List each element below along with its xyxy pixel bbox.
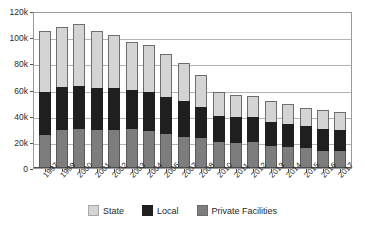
stacked-bar: [126, 42, 138, 168]
bar-segment-private-facilities: [73, 129, 85, 168]
stacked-bar: [178, 63, 190, 168]
legend-label: State: [103, 206, 124, 216]
bar-segment-private-facilities: [56, 130, 68, 168]
state-swatch-icon: [88, 205, 99, 216]
bar-column: [297, 13, 314, 168]
bar-column: [193, 13, 210, 168]
bar-segment-private-facilities: [178, 137, 190, 168]
bar-segment-private-facilities: [108, 130, 120, 168]
bar-segment-state: [178, 63, 190, 101]
bar-segment-local: [178, 101, 190, 136]
bar-segment-local: [143, 92, 155, 131]
stacked-bar: [317, 110, 329, 168]
bar-column: [314, 13, 331, 168]
bar-segment-state: [317, 110, 329, 128]
bar-segment-state: [213, 92, 225, 116]
plot-area: [33, 12, 352, 169]
local-swatch-icon: [142, 205, 153, 216]
bar-segment-local: [73, 86, 85, 129]
stacked-bar: [282, 104, 294, 168]
legend-label: Local: [157, 206, 179, 216]
bar-segment-private-facilities: [143, 131, 155, 168]
stacked-bar: [265, 101, 277, 168]
bar-column: [245, 13, 262, 168]
bar-column: [106, 13, 123, 168]
bar-column: [36, 13, 53, 168]
bar-segment-private-facilities: [160, 134, 172, 168]
bar-column: [53, 13, 70, 168]
stacked-bar: [56, 27, 68, 168]
bar-segment-state: [282, 104, 294, 124]
bar-segment-local: [91, 88, 103, 130]
bar-segment-local: [317, 129, 329, 151]
bar-segment-local: [230, 117, 242, 143]
bar-column: [227, 13, 244, 168]
stacked-bar: [91, 31, 103, 168]
bar-segment-local: [39, 92, 51, 135]
bar-segment-local: [108, 88, 120, 130]
bar-segment-state: [160, 54, 172, 97]
stacked-bar: [73, 24, 85, 168]
bar-segment-state: [195, 75, 207, 106]
bar-segment-state: [56, 27, 68, 87]
y-axis-tick-mark: [30, 169, 33, 170]
bar-segment-private-facilities: [39, 135, 51, 168]
private-facilities-swatch-icon: [197, 205, 208, 216]
stacked-bar: [160, 54, 172, 168]
bar-column: [88, 13, 105, 168]
stacked-bar: [300, 108, 312, 168]
bar-group: [34, 13, 351, 168]
stacked-bar: [39, 31, 51, 168]
stacked-bar-chart: 020k40k60k80k100k120k 199719992000200120…: [0, 0, 365, 230]
bar-segment-state: [126, 42, 138, 89]
bar-segment-state: [91, 31, 103, 89]
bar-segment-local: [247, 117, 259, 142]
bar-column: [140, 13, 157, 168]
y-axis-tick-label: 0: [0, 165, 28, 173]
bar-segment-state: [265, 101, 277, 122]
stacked-bar: [334, 112, 346, 168]
bar-segment-state: [334, 112, 346, 130]
bar-column: [210, 13, 227, 168]
stacked-bar: [247, 96, 259, 168]
bar-segment-state: [300, 108, 312, 126]
bar-segment-local: [265, 122, 277, 146]
stacked-bar: [213, 92, 225, 168]
bar-segment-local: [282, 124, 294, 148]
y-axis-tick-label: 100k: [0, 34, 28, 42]
stacked-bar: [230, 95, 242, 168]
bar-segment-state: [143, 45, 155, 92]
stacked-bar: [195, 75, 207, 168]
bar-column: [158, 13, 175, 168]
bar-segment-state: [39, 31, 51, 92]
y-axis-tick-label: 80k: [0, 60, 28, 68]
bar-segment-local: [213, 116, 225, 142]
bar-column: [332, 13, 349, 168]
legend-label: Private Facilities: [212, 206, 278, 216]
legend-item[interactable]: Private Facilities: [197, 205, 278, 216]
y-axis-tick-label: 40k: [0, 113, 28, 121]
bar-segment-state: [230, 95, 242, 117]
bar-segment-state: [73, 24, 85, 85]
bar-segment-private-facilities: [91, 130, 103, 168]
bar-segment-local: [300, 126, 312, 148]
stacked-bar: [143, 45, 155, 168]
bar-column: [279, 13, 296, 168]
bar-segment-local: [195, 107, 207, 138]
bar-column: [262, 13, 279, 168]
legend-item[interactable]: Local: [142, 205, 179, 216]
bar-segment-local: [334, 130, 346, 151]
bar-segment-local: [126, 90, 138, 129]
y-axis-tick-label: 60k: [0, 87, 28, 95]
chart-legend: StateLocalPrivate Facilities: [0, 205, 365, 216]
legend-item[interactable]: State: [88, 205, 124, 216]
bar-segment-state: [247, 96, 259, 117]
y-axis-tick-label: 20k: [0, 139, 28, 147]
y-axis-tick-label: 120k: [0, 8, 28, 16]
bar-segment-local: [160, 97, 172, 134]
bar-column: [175, 13, 192, 168]
bar-column: [123, 13, 140, 168]
bar-segment-private-facilities: [126, 129, 138, 168]
bar-segment-state: [108, 35, 120, 89]
bar-column: [71, 13, 88, 168]
